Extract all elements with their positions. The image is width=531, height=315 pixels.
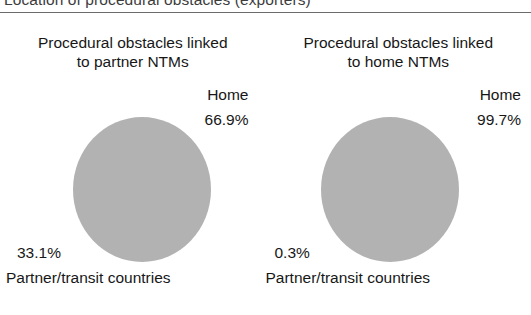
pie-title-partner-ntms: Procedural obstacles linked to partner N…	[0, 33, 266, 71]
pie-label-partner-transit-home-ntms: Partner/transit countries	[266, 268, 431, 287]
pie-value-partner-transit-partner-ntms: 33.1%	[17, 243, 61, 262]
pie-label-partner-transit-partner-ntms: Partner/transit countries	[6, 268, 171, 287]
pie-label-home-home-ntms: Home	[480, 85, 521, 104]
figure-caption-clip: Location of procedural obstacles (export…	[0, 0, 531, 12]
pie-circle-partner-ntms	[73, 117, 211, 262]
pie-title-home-ntms: Procedural obstacles linked to home NTMs	[266, 33, 531, 71]
pie-panel-home-ntms: Procedural obstacles linked to home NTMs…	[266, 13, 531, 315]
figure-caption: Location of procedural obstacles (export…	[4, 0, 311, 9]
pie-panel-partner-ntms: Procedural obstacles linked to partner N…	[0, 13, 266, 315]
pie-value-partner-transit-home-ntms: 0.3%	[275, 243, 310, 262]
pie-value-home-home-ntms: 99.7%	[477, 110, 521, 129]
pie-chart-panels: Procedural obstacles linked to partner N…	[0, 13, 531, 315]
pie-circle-home-ntms	[321, 117, 459, 262]
pie-label-home-partner-ntms: Home	[207, 85, 248, 104]
pie-value-home-partner-ntms: 66.9%	[205, 110, 249, 129]
